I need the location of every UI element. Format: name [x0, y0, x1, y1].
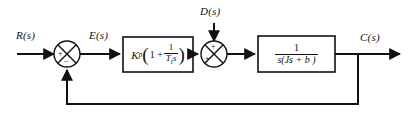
plant-fraction-numerator: 1: [292, 43, 301, 54]
controller-one-plus: 1 +: [149, 49, 164, 60]
controller-laplace-variable: s: [173, 53, 177, 63]
plant-transfer-fraction: 1 s(Js + b ): [275, 43, 317, 65]
controller-fraction-denominator: Tis: [164, 53, 179, 66]
plant-block-formula: 1 s(Js + b ): [258, 36, 335, 72]
controller-gain-symbol: K: [131, 49, 138, 61]
diagram-canvas: [0, 0, 408, 117]
reference-signal-label: R(s): [16, 29, 35, 41]
plant-fraction-denominator: s(Js + b ): [275, 54, 317, 66]
error-junction-minus-sign: −: [64, 58, 69, 66]
controller-block-formula: Kp(1 + 1 Tis ): [123, 37, 193, 72]
control-block-diagram: R(s) E(s) D(s) C(s) + − + + Kp(1 + 1 Tis…: [0, 0, 408, 117]
controller-integral-fraction: 1 Tis: [164, 43, 179, 65]
output-signal-label: C(s): [360, 31, 380, 43]
error-junction-plus-sign: +: [58, 50, 63, 58]
controller-close-paren: ): [178, 46, 184, 63]
disturbance-junction-left-plus-sign: +: [205, 55, 210, 63]
disturbance-junction-top-plus-sign: +: [211, 43, 216, 51]
error-signal-label: E(s): [89, 29, 108, 41]
controller-fraction-numerator: 1: [167, 43, 176, 52]
disturbance-signal-label: D(s): [200, 5, 220, 17]
